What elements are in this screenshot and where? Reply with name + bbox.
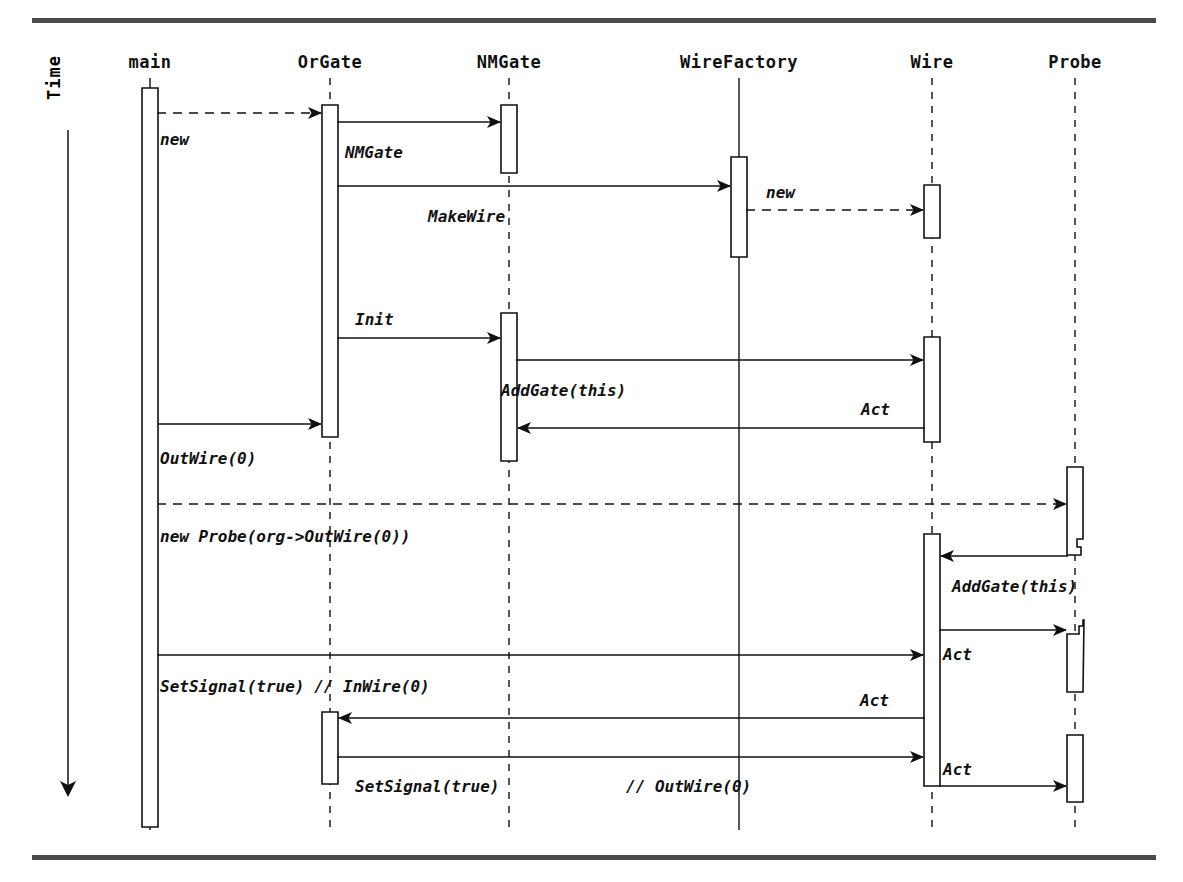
activations-layer [142, 88, 1084, 827]
activation-bar-orgate [322, 712, 338, 784]
activation-bar-nmgate [501, 105, 517, 173]
activation-bar-probe [1067, 735, 1083, 802]
labels-layer: mainOrGateNMGateWireFactoryWireProbe [129, 52, 1102, 72]
message-label: Init [355, 310, 394, 329]
activation-bar-wirefactory [731, 157, 747, 257]
lifeline-label-wire: Wire [911, 52, 954, 72]
message-label: Act [860, 400, 890, 419]
message-label: MakeWire [427, 207, 505, 226]
activation-bar-wire [924, 185, 940, 238]
message-label: Act [859, 691, 889, 710]
lifeline-label-wirefactory: WireFactory [680, 52, 798, 72]
message-label: OutWire(0) [160, 449, 256, 468]
lifeline-label-nmgate: NMGate [477, 52, 541, 72]
activation-bar-orgate [322, 105, 338, 437]
message-label: SetSignal(true) [355, 777, 500, 796]
message-label: Act [942, 645, 972, 664]
lifeline-label-orgate: OrGate [298, 52, 362, 72]
time-axis-label: Time [44, 55, 64, 100]
lifeline-label-main: main [129, 52, 172, 72]
message-label: // OutWire(0) [626, 777, 751, 796]
activation-bar-main [142, 88, 158, 827]
top-rule [32, 18, 1156, 23]
lifeline-label-probe: Probe [1048, 52, 1102, 72]
activation-bar-wire [924, 534, 940, 786]
frame-rules [32, 18, 1156, 860]
message-label: new Probe(org->OutWire(0)) [160, 527, 410, 546]
message-label: Act [942, 760, 972, 779]
message-label: AddGate(this) [951, 577, 1077, 596]
message-label: NMGate [344, 143, 403, 162]
bottom-rule [32, 855, 1156, 860]
message-label: new [766, 183, 796, 202]
message-label: AddGate(this) [500, 381, 626, 400]
message-label: new [160, 130, 190, 149]
message-label: SetSignal(true) // InWire(0) [160, 677, 430, 696]
activation-bar-probe [1067, 467, 1083, 555]
activation-bar-wire [924, 337, 940, 442]
sequence-diagram-canvas: newNMGateMakeWirenewInitAddGate(this)Act… [0, 0, 1183, 882]
sequence-diagram-page: newNMGateMakeWirenewInitAddGate(this)Act… [0, 0, 1183, 882]
